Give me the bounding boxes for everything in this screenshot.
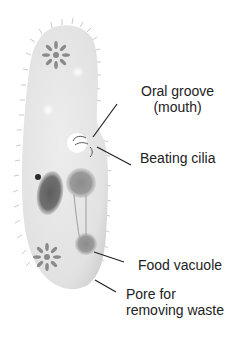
- micronucleus: [35, 174, 41, 180]
- food-vacuole-forming: [66, 168, 96, 198]
- leader-pore: [95, 280, 116, 292]
- food-vacuole: [75, 233, 97, 255]
- label-pore-line2: removing waste: [126, 302, 224, 318]
- label-oral-groove: Oral groove (mouth): [141, 83, 214, 115]
- label-food-vacuole: Food vacuole: [138, 257, 222, 273]
- label-beating-cilia: Beating cilia: [140, 150, 216, 166]
- label-pore: Pore for removing waste: [126, 286, 224, 318]
- contractile-vacuole-top: [42, 41, 70, 69]
- label-pore-line1: Pore for: [126, 286, 224, 302]
- label-oral-groove-line2: (mouth): [141, 99, 214, 115]
- contractile-vacuole-bottom: [33, 243, 61, 271]
- label-oral-groove-line1: Oral groove: [141, 83, 214, 99]
